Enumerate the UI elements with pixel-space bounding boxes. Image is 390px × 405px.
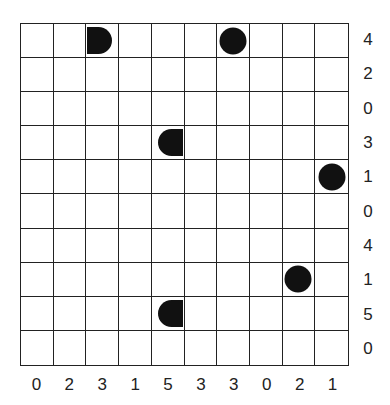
grid-cell-r3-c6[interactable] [217, 126, 250, 160]
grid-cell-r6-c8[interactable] [283, 229, 316, 263]
grid-cell-r6-c3[interactable] [119, 229, 152, 263]
grid-cell-r9-c7[interactable] [250, 331, 283, 365]
grid-cell-r0-c6[interactable] [217, 24, 250, 58]
grid-cell-r2-c7[interactable] [250, 92, 283, 126]
grid-cell-r1-c0[interactable] [21, 58, 54, 92]
grid-cell-r5-c1[interactable] [54, 194, 87, 228]
grid-cell-r9-c1[interactable] [54, 331, 87, 365]
grid-cell-r8-c2[interactable] [86, 297, 119, 331]
grid-cell-r6-c5[interactable] [185, 229, 218, 263]
grid-cell-r8-c9[interactable] [315, 297, 348, 331]
grid-cell-r8-c8[interactable] [283, 297, 316, 331]
grid-cell-r4-c8[interactable] [283, 160, 316, 194]
grid-cell-r1-c7[interactable] [250, 58, 283, 92]
grid-cell-r3-c2[interactable] [86, 126, 119, 160]
grid-cell-r2-c8[interactable] [283, 92, 316, 126]
grid-cell-r2-c3[interactable] [119, 92, 152, 126]
grid-cell-r8-c5[interactable] [185, 297, 218, 331]
grid-cell-r7-c5[interactable] [185, 263, 218, 297]
grid-cell-r5-c6[interactable] [217, 194, 250, 228]
grid-cell-r4-c0[interactable] [21, 160, 54, 194]
grid-cell-r7-c1[interactable] [54, 263, 87, 297]
grid-cell-r2-c5[interactable] [185, 92, 218, 126]
grid-cell-r4-c2[interactable] [86, 160, 119, 194]
grid-cell-r5-c7[interactable] [250, 194, 283, 228]
grid-cell-r4-c7[interactable] [250, 160, 283, 194]
grid-cell-r3-c1[interactable] [54, 126, 87, 160]
grid-cell-r1-c8[interactable] [283, 58, 316, 92]
grid-cell-r9-c0[interactable] [21, 331, 54, 365]
grid-cell-r4-c4[interactable] [152, 160, 185, 194]
grid-cell-r6-c9[interactable] [315, 229, 348, 263]
grid-cell-r6-c7[interactable] [250, 229, 283, 263]
grid-cell-r1-c5[interactable] [185, 58, 218, 92]
grid-cell-r5-c3[interactable] [119, 194, 152, 228]
grid-cell-r1-c6[interactable] [217, 58, 250, 92]
grid-cell-r6-c2[interactable] [86, 229, 119, 263]
grid-cell-r2-c2[interactable] [86, 92, 119, 126]
grid-cell-r5-c8[interactable] [283, 194, 316, 228]
grid-cell-r3-c5[interactable] [185, 126, 218, 160]
grid-cell-r7-c2[interactable] [86, 263, 119, 297]
grid-cell-r5-c4[interactable] [152, 194, 185, 228]
grid-cell-r7-c7[interactable] [250, 263, 283, 297]
grid-cell-r0-c7[interactable] [250, 24, 283, 58]
grid-cell-r8-c0[interactable] [21, 297, 54, 331]
grid-cell-r9-c4[interactable] [152, 331, 185, 365]
grid-cell-r1-c1[interactable] [54, 58, 87, 92]
grid-cell-r9-c9[interactable] [315, 331, 348, 365]
grid-cell-r1-c9[interactable] [315, 58, 348, 92]
grid-cell-r2-c0[interactable] [21, 92, 54, 126]
grid-cell-r0-c0[interactable] [21, 24, 54, 58]
grid-cell-r4-c6[interactable] [217, 160, 250, 194]
grid-cell-r7-c0[interactable] [21, 263, 54, 297]
grid-cell-r4-c1[interactable] [54, 160, 87, 194]
grid-cell-r5-c2[interactable] [86, 194, 119, 228]
grid-cell-r3-c0[interactable] [21, 126, 54, 160]
grid-cell-r1-c2[interactable] [86, 58, 119, 92]
grid-cell-r2-c4[interactable] [152, 92, 185, 126]
grid-cell-r3-c4[interactable] [152, 126, 185, 160]
grid-cell-r9-c2[interactable] [86, 331, 119, 365]
grid-cell-r8-c6[interactable] [217, 297, 250, 331]
grid-cell-r8-c3[interactable] [119, 297, 152, 331]
grid-cell-r5-c0[interactable] [21, 194, 54, 228]
grid-cell-r7-c4[interactable] [152, 263, 185, 297]
grid-cell-r1-c3[interactable] [119, 58, 152, 92]
grid-cell-r6-c1[interactable] [54, 229, 87, 263]
grid-cell-r0-c3[interactable] [119, 24, 152, 58]
grid-cell-r7-c8[interactable] [283, 263, 316, 297]
grid-cell-r5-c5[interactable] [185, 194, 218, 228]
grid-cell-r2-c1[interactable] [54, 92, 87, 126]
grid-cell-r1-c4[interactable] [152, 58, 185, 92]
grid-cell-r5-c9[interactable] [315, 194, 348, 228]
grid-cell-r6-c4[interactable] [152, 229, 185, 263]
grid-cell-r3-c7[interactable] [250, 126, 283, 160]
grid-cell-r9-c3[interactable] [119, 331, 152, 365]
grid-cell-r3-c9[interactable] [315, 126, 348, 160]
grid-cell-r2-c9[interactable] [315, 92, 348, 126]
grid-cell-r3-c3[interactable] [119, 126, 152, 160]
grid-cell-r6-c0[interactable] [21, 229, 54, 263]
grid-cell-r4-c3[interactable] [119, 160, 152, 194]
grid-cell-r7-c6[interactable] [217, 263, 250, 297]
grid-cell-r9-c6[interactable] [217, 331, 250, 365]
grid-cell-r0-c1[interactable] [54, 24, 87, 58]
grid-cell-r8-c1[interactable] [54, 297, 87, 331]
grid-cell-r4-c9[interactable] [315, 160, 348, 194]
grid-cell-r8-c4[interactable] [152, 297, 185, 331]
grid-cell-r0-c9[interactable] [315, 24, 348, 58]
grid-cell-r6-c6[interactable] [217, 229, 250, 263]
grid-cell-r9-c5[interactable] [185, 331, 218, 365]
grid-cell-r0-c5[interactable] [185, 24, 218, 58]
grid-cell-r0-c4[interactable] [152, 24, 185, 58]
grid-cell-r9-c8[interactable] [283, 331, 316, 365]
grid-cell-r7-c3[interactable] [119, 263, 152, 297]
grid-cell-r3-c8[interactable] [283, 126, 316, 160]
grid-cell-r0-c8[interactable] [283, 24, 316, 58]
grid-cell-r4-c5[interactable] [185, 160, 218, 194]
grid-cell-r0-c2[interactable] [86, 24, 119, 58]
grid-cell-r7-c9[interactable] [315, 263, 348, 297]
grid-cell-r8-c7[interactable] [250, 297, 283, 331]
grid-cell-r2-c6[interactable] [217, 92, 250, 126]
